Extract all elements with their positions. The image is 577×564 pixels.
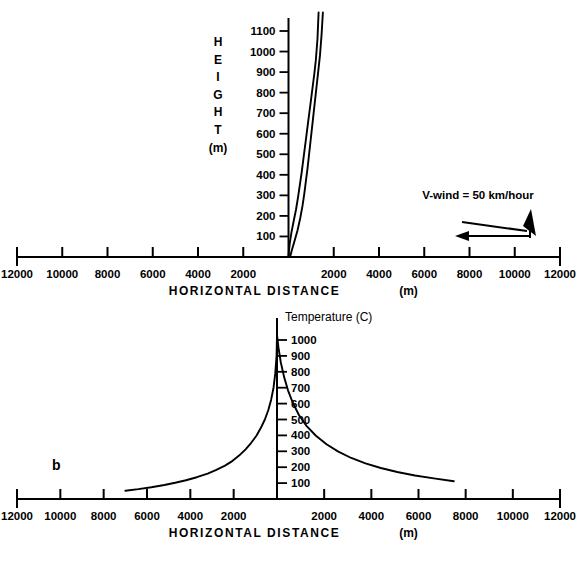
x-tick-label: 6000 — [140, 268, 166, 280]
y-tick-label-a: 1100 — [251, 25, 276, 37]
wind-vector-arrows — [455, 209, 536, 241]
y-axis-label-letter: T — [214, 123, 222, 137]
y-axis-label-letter: H — [214, 35, 223, 49]
wind-arrow-horizontal-head — [455, 231, 469, 241]
y-tick-label-a: 800 — [256, 87, 275, 99]
y-axis-label-letter: G — [213, 88, 222, 102]
figure-container: 10020030040050060070080090010001100HEIGH… — [0, 0, 577, 564]
y-tick-label-b: 700 — [291, 382, 310, 394]
x-axis-title: HORIZONTAL DISTANCE(m) — [169, 526, 418, 540]
x-tick-label: 2000 — [311, 510, 337, 522]
curve-temperature-profile — [125, 335, 454, 491]
y-tick-label-a: 400 — [256, 169, 275, 181]
x-tick-label: 12000 — [544, 510, 576, 522]
y-tick-label-b: 1000 — [291, 334, 317, 346]
wind-arrow-diagonal-line — [462, 222, 527, 231]
x-tick-label: 6000 — [406, 510, 432, 522]
x-tick-label: 4000 — [366, 268, 392, 280]
y-tick-label-a: 200 — [256, 210, 275, 222]
x-tick-label: 4000 — [178, 510, 204, 522]
y-tick-label-b: 900 — [291, 350, 310, 362]
x-tick-label: 10000 — [499, 268, 531, 280]
panel-b-label: b — [52, 457, 61, 473]
wind-annotation-label: V-wind = 50 km/hour — [422, 189, 534, 201]
y-axis-label-letter: I — [216, 70, 219, 84]
x-tick-label: 10000 — [46, 268, 78, 280]
x-tick-label: 6000 — [411, 268, 437, 280]
x-axis-title-text: HORIZONTAL DISTANCE — [169, 284, 341, 298]
x-tick-label: 8000 — [457, 268, 483, 280]
panel-b-title: Temperature (C) — [285, 310, 372, 324]
y-axis-label-letter: H — [214, 105, 223, 119]
y-tick-label-b: 100 — [291, 477, 310, 489]
x-tick-label: 6000 — [134, 510, 160, 522]
y-tick-label-a: 100 — [256, 230, 275, 242]
y-tick-label-b: 400 — [291, 429, 310, 441]
y-tick-label-a: 700 — [256, 107, 275, 119]
y-tick-label-a: 1000 — [250, 46, 276, 58]
x-tick-label: 4000 — [185, 268, 211, 280]
y-tick-label-a: 900 — [256, 66, 275, 78]
x-axis-title-unit: (m) — [399, 284, 418, 298]
x-tick-label: 10000 — [44, 510, 76, 522]
x-tick-label: 12000 — [544, 268, 576, 280]
x-tick-label: 8000 — [95, 268, 121, 280]
y-tick-label-a: 300 — [256, 189, 275, 201]
figure-svg: 10020030040050060070080090010001100HEIGH… — [0, 0, 577, 564]
x-tick-label: 2000 — [230, 268, 256, 280]
curve-plume-left-edge — [289, 13, 319, 257]
x-axis-title: HORIZONTAL DISTANCE(m) — [169, 284, 418, 298]
y-tick-label-b: 300 — [291, 445, 310, 457]
x-axis-title-unit: (m) — [399, 526, 418, 540]
chart-panel-a: 10020030040050060070080090010001100HEIGH… — [1, 13, 576, 298]
x-tick-label: 4000 — [359, 510, 385, 522]
x-tick-label: 2000 — [321, 268, 347, 280]
x-tick-label: 12000 — [1, 268, 33, 280]
y-tick-label-b: 200 — [291, 461, 310, 473]
x-axis-title-text: HORIZONTAL DISTANCE — [169, 526, 341, 540]
x-tick-label: 10000 — [497, 510, 529, 522]
x-axis-panel-b: 1200010000800060004000200020004000600080… — [1, 489, 576, 540]
y-tick-label-b: 500 — [291, 414, 310, 426]
x-tick-label: 2000 — [221, 510, 247, 522]
y-tick-label-b: 800 — [291, 366, 310, 378]
y-axis-label-letter: E — [214, 53, 222, 67]
x-tick-label: 8000 — [453, 510, 479, 522]
y-tick-label-a: 600 — [256, 128, 275, 140]
y-axis-label-unit: (m) — [209, 141, 228, 155]
y-tick-label-a: 500 — [256, 148, 275, 160]
x-tick-label: 8000 — [91, 510, 117, 522]
chart-panel-b: 1002003004005006007008009001000Temperatu… — [1, 310, 576, 540]
x-tick-label: 12000 — [1, 510, 33, 522]
